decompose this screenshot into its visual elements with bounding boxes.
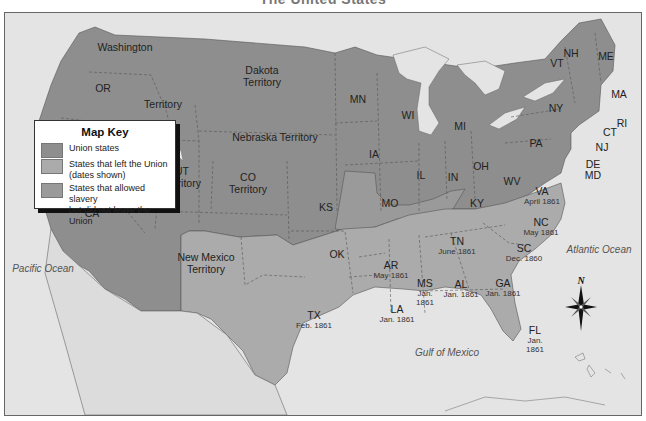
label-md: MD (585, 169, 601, 181)
label-ia: IA (369, 148, 379, 160)
label-wi: WI (402, 109, 415, 121)
label-or: OR (95, 82, 111, 94)
label-tx: TXFeb. 1861 (296, 309, 332, 330)
label-al: ALJan. 1861 (443, 278, 478, 299)
key-item-seceded: States that left the Union(dates shown) (41, 159, 168, 181)
border-slave-swatch (41, 183, 63, 198)
label-nc: NCMay 1861 (523, 216, 558, 237)
islands (445, 353, 625, 411)
map-title: The United States (0, 0, 646, 7)
label-ky: KY (470, 197, 484, 209)
label-va: VAApril 1861 (524, 185, 560, 206)
label-vt: VT (550, 57, 563, 69)
label-mn: MN (350, 93, 366, 105)
label-in: IN (448, 171, 459, 183)
map-frame: Washington OR Territory DakotaTerritory … (4, 12, 642, 416)
label-fl: FLJan.1861 (526, 324, 544, 354)
label-ms: MSJan.1861 (416, 277, 434, 307)
label-gulf-of-mexico: Gulf of Mexico (415, 347, 479, 358)
label-il: IL (417, 169, 426, 181)
compass-rose-icon: N (561, 275, 601, 331)
key-item-union: Union states (41, 143, 119, 158)
label-ny: NY (549, 102, 564, 114)
label-ma: MA (611, 88, 627, 100)
key-item-border-slave: States that allowed slaverybut did not l… (41, 183, 175, 227)
label-ok: OK (329, 248, 344, 260)
label-nh: NH (563, 47, 578, 59)
label-ri: RI (617, 117, 628, 129)
label-sc: SCDec. 1860 (506, 242, 542, 263)
label-mi: MI (454, 120, 466, 132)
union-swatch (41, 143, 63, 158)
label-oh: OH (473, 160, 489, 172)
label-nebraska: Nebraska Territory (232, 131, 318, 143)
label-atlantic-ocean: Atlantic Ocean (566, 244, 631, 255)
label-co: COTerritory (229, 171, 267, 195)
seceded-swatch (41, 159, 63, 174)
label-pa: PA (529, 137, 542, 149)
map-key: Map Key Union states States that left th… (34, 120, 176, 209)
label-ar: ARMay 1861 (373, 259, 408, 280)
label-ct: CT (603, 126, 617, 138)
label-ga: GAJan. 1861 (485, 277, 520, 298)
label-mo: MO (382, 197, 399, 209)
label-wv: WV (504, 175, 521, 187)
map-key-title: Map Key (35, 126, 175, 138)
label-nm: New MexicoTerritory (177, 251, 234, 275)
label-la: LAJan. 1861 (379, 303, 414, 324)
label-ks: KS (319, 201, 333, 213)
label-nj: NJ (596, 141, 609, 153)
label-dakota: DakotaTerritory (243, 64, 281, 88)
label-tn: TNJune 1861 (438, 235, 475, 256)
label-washington: Washington (97, 41, 152, 53)
label-territory-nw: Territory (144, 98, 182, 110)
label-pacific-ocean: Pacific Ocean (12, 263, 74, 274)
label-me: ME (598, 50, 614, 62)
